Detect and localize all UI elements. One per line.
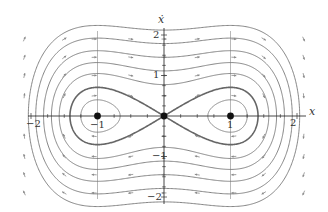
direction-arrow <box>195 155 200 157</box>
direction-arrow <box>62 192 66 195</box>
direction-arrow <box>92 155 97 157</box>
direction-arrow <box>128 174 133 176</box>
direction-arrow <box>23 73 25 78</box>
direction-arrow <box>92 174 97 176</box>
x-tick-label-1: 1 <box>227 120 233 130</box>
direction-arrow <box>303 55 305 60</box>
direction-arrow <box>231 74 236 76</box>
direction-arrow <box>128 192 133 194</box>
direction-arrow <box>128 38 133 40</box>
direction-arrow <box>23 55 25 60</box>
direction-arrow <box>23 154 25 159</box>
direction-arrow <box>231 174 236 176</box>
direction-arrow <box>62 56 66 59</box>
direction-arrow <box>128 56 133 58</box>
direction-arrow <box>195 56 200 58</box>
y-tick-label-1: 1 <box>153 70 159 80</box>
direction-arrow <box>302 154 304 159</box>
direction-arrow <box>302 134 304 139</box>
equilibrium-saddle <box>161 113 168 120</box>
direction-arrow <box>23 172 25 177</box>
direction-arrow <box>302 191 304 196</box>
y-tick-label-minus-2: −2 <box>147 192 162 202</box>
direction-arrow <box>262 56 266 59</box>
direction-arrow <box>23 37 25 42</box>
direction-arrow <box>23 134 25 139</box>
x-tick-label-minus-1: −1 <box>90 120 105 130</box>
x-tick-label-2: 2 <box>290 118 296 128</box>
direction-arrow <box>23 191 25 196</box>
direction-arrow <box>303 73 305 78</box>
direction-arrow <box>92 135 97 137</box>
direction-arrow <box>128 74 133 76</box>
direction-arrow <box>92 56 97 58</box>
direction-arrow <box>92 95 97 97</box>
direction-arrow <box>302 93 304 98</box>
direction-arrow <box>92 74 97 76</box>
direction-arrow <box>262 38 266 41</box>
direction-arrow <box>231 135 236 137</box>
direction-arrow <box>302 172 304 177</box>
direction-arrow <box>231 95 236 97</box>
direction-arrow <box>231 56 236 58</box>
direction-arrow <box>62 38 66 41</box>
direction-arrow <box>128 155 133 157</box>
direction-arrow <box>195 192 200 194</box>
direction-arrow <box>262 192 266 195</box>
y-tick-label-2: 2 <box>153 30 159 40</box>
direction-arrow <box>23 93 25 98</box>
phase-portrait-plot <box>0 0 328 212</box>
x-tick-label-minus-2: −2 <box>26 119 41 129</box>
direction-arrow <box>62 173 66 176</box>
direction-arrow <box>262 173 266 176</box>
direction-arrow <box>195 74 200 76</box>
y-tick-label-minus-1: −1 <box>152 151 167 161</box>
direction-arrow <box>303 37 305 42</box>
direction-arrow <box>195 173 200 175</box>
x-axis-label: x <box>309 106 315 117</box>
direction-arrow <box>231 155 236 157</box>
direction-arrow <box>195 38 200 40</box>
y-axis-label: ẋ <box>158 14 164 25</box>
